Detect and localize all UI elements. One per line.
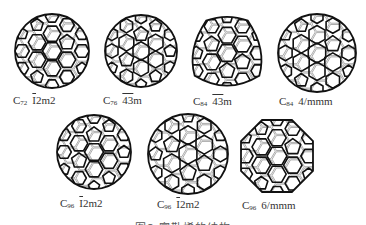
point-group-symbol: I2m2 [79,197,102,209]
point-group-symbol: 43m [212,95,232,107]
point-group-symbol: 4/mmm [298,95,332,107]
fullerene-cage-c96 [146,112,230,196]
fullerene-cage-c84 [276,12,358,94]
formula-subscript: 84 [200,100,207,108]
structure-label: C96I2m2 [60,198,103,210]
fullerene-cage-c96 [236,115,318,197]
fullerene-cage-c84 [187,13,267,93]
structure-label: C8443m [193,96,232,108]
fullerene-cage-c96 [55,113,133,191]
point-group-symbol: I2m2 [176,198,199,210]
formula-subscript: 96 [67,202,74,210]
formula-subscript: 84 [286,100,293,108]
formula-subscript: 96 [249,204,256,212]
structure-label: C966/mmm [242,200,296,212]
fullerene-cage-c76 [103,13,179,89]
point-group-symbol: I2m2 [32,94,55,106]
formula-subscript: 72 [20,99,27,107]
structure-label: C96I2m2 [157,199,200,211]
point-group-symbol: 43m [122,94,142,106]
point-group-symbol: 6/mmm [261,199,295,211]
formula-subscript: 96 [164,203,171,211]
fullerene-cage-c72 [13,12,91,90]
structure-label: C844/mmm [279,96,333,108]
figure-caption: 图8 富勒烯的结构 [0,219,366,225]
structure-label: C7643m [103,95,142,107]
structure-label: C72I2m2 [13,95,56,107]
formula-subscript: 76 [110,99,117,107]
